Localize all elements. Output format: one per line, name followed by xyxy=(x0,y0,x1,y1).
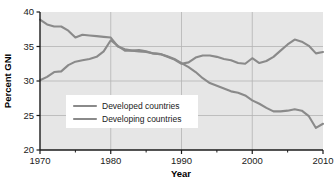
y-axis-title: Percent GNI xyxy=(2,54,13,108)
x-tick-label: 1990 xyxy=(171,155,192,166)
y-tick-label: 25 xyxy=(23,110,34,121)
legend-label: Developing countries xyxy=(102,114,181,124)
legend-label: Developed countries xyxy=(102,101,180,111)
line-chart: 19701980199020002010 2025303540 Develope… xyxy=(0,0,336,182)
y-tick-label: 30 xyxy=(23,75,34,86)
x-axis-title: Year xyxy=(171,168,191,179)
x-tick-label: 2010 xyxy=(312,155,333,166)
chart-legend: Developed countriesDeveloping countries xyxy=(66,95,198,128)
chart-figure: 19701980199020002010 2025303540 Develope… xyxy=(0,0,336,182)
x-tick-label: 1980 xyxy=(100,155,121,166)
y-tick-label: 40 xyxy=(23,6,34,17)
y-tick-label: 35 xyxy=(23,41,34,52)
y-tick-label: 20 xyxy=(23,144,34,155)
x-tick-label: 2000 xyxy=(242,155,263,166)
x-tick-label: 1970 xyxy=(29,155,50,166)
